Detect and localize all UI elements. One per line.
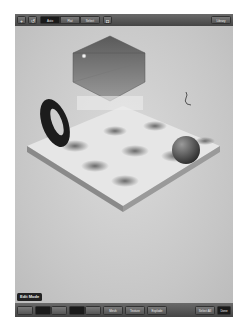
tab-auto[interactable]: Auto — [40, 16, 60, 24]
tab-flat[interactable]: Flat — [60, 16, 80, 24]
tool-4-button[interactable] — [69, 306, 85, 315]
mode-segmented-control: Auto Flat Select — [40, 16, 100, 24]
mesh-button[interactable]: Mesh — [103, 306, 123, 315]
undo-button[interactable]: ↺ — [28, 16, 37, 24]
camera-figure-icon[interactable] — [185, 92, 191, 105]
texture-button[interactable]: Texture — [125, 306, 145, 315]
mode-label: Edit Mode — [17, 293, 42, 301]
3d-viewport[interactable] — [15, 26, 233, 303]
done-button[interactable]: Done — [217, 306, 231, 315]
scene-render — [15, 26, 233, 303]
tool-1-button[interactable] — [17, 306, 33, 315]
camera-button[interactable]: ◘ — [103, 16, 112, 24]
tool-2-button[interactable] — [35, 306, 51, 315]
light-icon[interactable] — [82, 54, 86, 58]
top-toolbar: + ↺ Auto Flat Select ◘ Library — [15, 14, 233, 26]
hexagonal-prism[interactable] — [73, 36, 145, 110]
tab-select[interactable]: Select — [80, 16, 100, 24]
tool-3-button[interactable] — [51, 306, 67, 315]
select-all-button[interactable]: Select All — [195, 306, 215, 315]
library-button[interactable]: Library — [211, 16, 231, 24]
tool-5-button[interactable] — [85, 306, 101, 315]
sphere[interactable] — [172, 136, 200, 164]
app-frame: + ↺ Auto Flat Select ◘ Library — [15, 14, 233, 317]
bottom-toolbar: Mesh Texture Explode Select All Done — [15, 303, 233, 317]
add-button[interactable]: + — [17, 16, 26, 24]
explode-button[interactable]: Explode — [147, 306, 167, 315]
